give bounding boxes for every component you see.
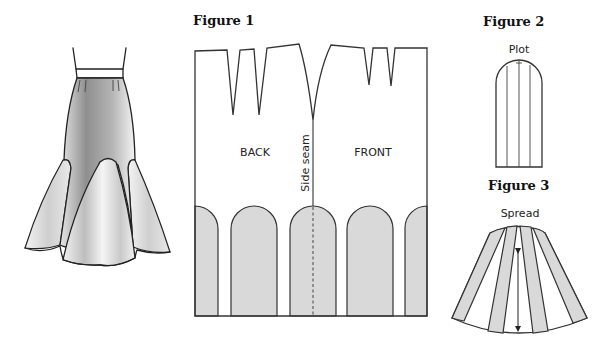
- figure-2: Figure 2 Plot: [483, 14, 544, 167]
- body-line-right: [123, 48, 126, 69]
- figure-1: Figure 1 BACK FRONT Side seam: [193, 13, 427, 316]
- panel-5: [405, 206, 427, 316]
- panel-2: [231, 206, 277, 316]
- panel-4: [347, 206, 393, 316]
- plot-label: Plot: [509, 43, 530, 56]
- spread-label: Spread: [501, 207, 540, 220]
- diagram-canvas: Figure 1 BACK FRONT Side seam Figure 2 P…: [0, 0, 607, 353]
- figure-1-title: Figure 1: [193, 13, 254, 28]
- godet-right: [128, 160, 170, 253]
- panel-1: [195, 206, 218, 316]
- front-label: FRONT: [354, 146, 392, 159]
- skirt-illustration: [25, 48, 170, 266]
- figure-3-title: Figure 3: [488, 178, 549, 193]
- side-seam-label: Side seam: [299, 134, 312, 191]
- panel-3: [290, 206, 336, 316]
- back-label: BACK: [240, 146, 271, 159]
- godet-panels: [195, 206, 427, 316]
- figure-2-title: Figure 2: [483, 14, 544, 29]
- figure-3: Figure 3 Spread: [452, 178, 587, 333]
- waistband: [76, 69, 123, 78]
- body-line-left: [73, 48, 76, 69]
